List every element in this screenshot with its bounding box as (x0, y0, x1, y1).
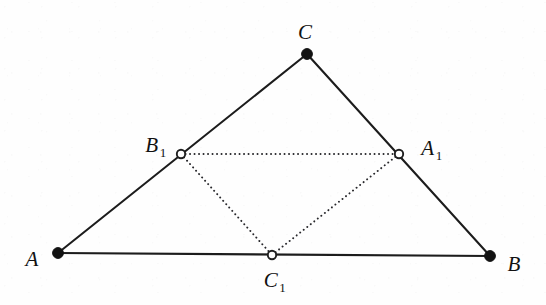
vertex-point-b (485, 251, 496, 262)
edge-b1-c1 (181, 154, 272, 255)
vertex-point-b1 (177, 150, 185, 158)
dotted-medial-triangle-edges (181, 154, 399, 255)
geometry-figure: A B C A1 B1 C1 (0, 0, 546, 305)
label-point-b-main: B (508, 252, 521, 276)
label-point-b1-sub: 1 (160, 145, 167, 160)
edge-c1-a1 (272, 154, 399, 255)
vertex-point-c1 (268, 251, 276, 259)
label-point-a1: A1 (421, 138, 440, 159)
label-point-c1-sub: 1 (279, 280, 286, 295)
label-point-a-main: A (26, 247, 39, 271)
vertex-point-c (302, 49, 313, 60)
label-point-b1-main: B (145, 133, 158, 157)
label-point-a1-sub: 1 (436, 148, 443, 163)
label-point-c1-main: C (264, 268, 278, 292)
label-point-c-main: C (298, 20, 312, 44)
vertex-point-a1 (395, 150, 403, 158)
label-point-b1: B1 (145, 135, 164, 156)
label-point-c1: C1 (264, 270, 285, 291)
label-point-a1-main: A (421, 136, 434, 160)
figure-canvas (0, 0, 546, 305)
label-point-a: A (26, 249, 39, 270)
label-point-c: C (298, 22, 312, 43)
vertex-point-a (53, 248, 64, 259)
label-point-b: B (508, 254, 521, 275)
